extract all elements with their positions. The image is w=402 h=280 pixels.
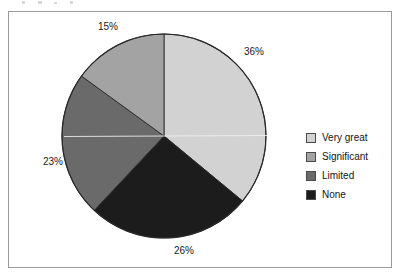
legend-item-significant[interactable]: Significant: [306, 149, 402, 165]
chart-legend: Very greatSignificantLimitedNone: [306, 130, 402, 206]
pie-chart-figure: 15%36%23%26% Very greatSignificantLimite…: [0, 0, 402, 280]
legend-item-label: Significant: [322, 152, 368, 162]
clipped-caption-artifact: [0, 0, 402, 9]
chart-plot-frame: 15%36%23%26% Very greatSignificantLimite…: [8, 11, 392, 268]
legend-swatch-icon: [306, 133, 316, 143]
legend-item-very-great[interactable]: Very great: [306, 130, 402, 146]
legend-item-label: None: [322, 190, 346, 200]
pie-value-label: 36%: [244, 47, 264, 57]
legend-item-limited[interactable]: Limited: [306, 168, 402, 184]
legend-swatch-icon: [306, 171, 316, 181]
legend-item-none[interactable]: None: [306, 187, 402, 203]
legend-item-label: Very great: [322, 133, 368, 143]
legend-swatch-icon: [306, 190, 316, 200]
pie-value-label: 15%: [98, 22, 118, 32]
pie-value-label: 23%: [43, 157, 63, 167]
pie-value-label: 26%: [174, 246, 194, 256]
legend-item-label: Limited: [322, 171, 354, 181]
legend-swatch-icon: [306, 152, 316, 162]
